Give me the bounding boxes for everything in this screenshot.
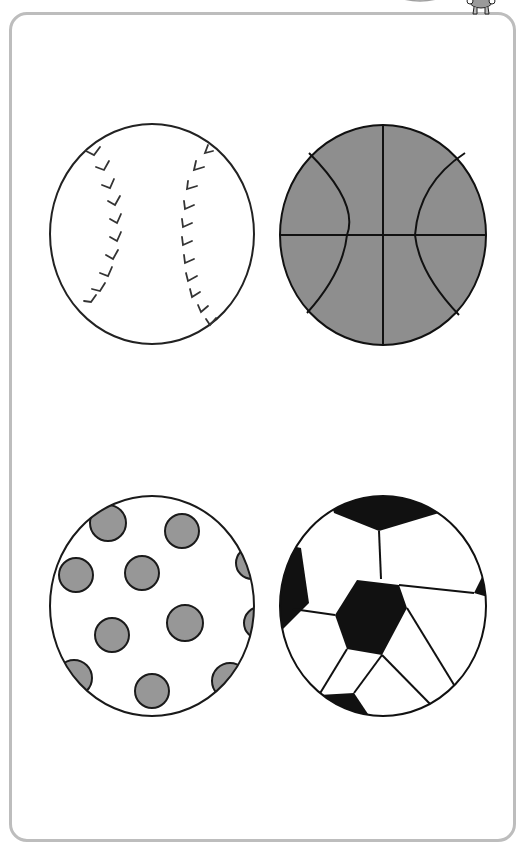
basketball-icon: [279, 123, 489, 347]
polka-dot-ball-icon: [48, 493, 258, 719]
top-arc-decoration: [388, 0, 452, 6]
polka-dot-ball: [48, 493, 258, 719]
soccer-ball: [279, 493, 489, 719]
baseball-icon: [48, 121, 258, 347]
mascot-icon: [462, 0, 500, 18]
soccer-ball-icon: [279, 493, 489, 719]
basketball: [279, 123, 489, 347]
baseball: [48, 121, 258, 347]
